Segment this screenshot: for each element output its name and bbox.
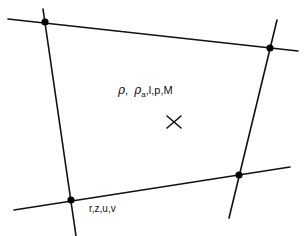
bottom-grid-line (14, 167, 290, 210)
cell-center-variables-label: ρ, ρa,l,p,M (118, 84, 173, 99)
rho-symbol: ρ (118, 83, 125, 97)
vertex-node-bottom-right (235, 171, 242, 178)
vertex-node-top-left (41, 18, 48, 25)
vertex-node-top-right (266, 44, 273, 51)
vertex-node-bottom-left (67, 196, 74, 203)
cell-center-x-marker-icon (167, 116, 181, 128)
top-grid-line (8, 19, 298, 51)
grid-cell-diagram (0, 0, 305, 236)
label-separator: , (125, 84, 128, 96)
vertex-variables-label: r,z,u,v (89, 204, 116, 214)
cell-variables-rest: ,l,p,M (146, 84, 173, 96)
